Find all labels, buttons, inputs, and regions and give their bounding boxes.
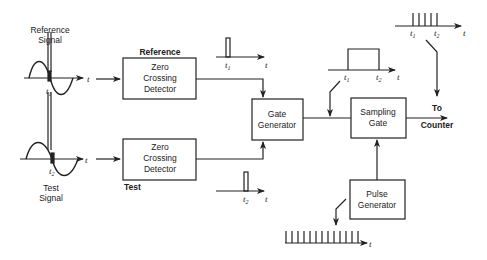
pulse-gen-line2: Generator <box>358 200 396 210</box>
clock-pulses-waveform <box>285 199 367 243</box>
output-t2: t2 <box>434 28 440 39</box>
test-axis-t: t <box>85 155 88 165</box>
clock-pointer <box>336 199 346 225</box>
zcd-test-line1: Zero <box>151 142 169 152</box>
ref-pulse-axis: t <box>265 60 268 70</box>
ref-axis-t: t <box>87 74 90 84</box>
output-to-label: To <box>432 103 442 113</box>
output-counter-label: Counter <box>421 120 454 130</box>
output-pulses-waveform <box>395 13 461 96</box>
ref-t1-label: t1 <box>46 86 52 97</box>
reference-pulse-waveform <box>216 38 264 57</box>
zcd-ref-tag: Reference <box>139 47 180 57</box>
reference-signal-label-2: Signal <box>38 35 62 45</box>
ref-to-gate-connector <box>196 79 263 97</box>
test-signal-waveform <box>20 143 120 176</box>
gate-waveform <box>328 49 395 116</box>
gate-gen-line2: Generator <box>258 120 296 130</box>
pulse-gen-line1: Pulse <box>366 189 388 199</box>
test-pulse-axis: t <box>265 194 268 204</box>
gate-t1: t1 <box>344 72 350 83</box>
gate-gen-line1: Gate <box>268 109 287 119</box>
phase-measurement-block-diagram: Reference Signal t1 t t2 t Test Signal R… <box>0 0 487 260</box>
gate-axis: t <box>397 72 400 82</box>
zcd-ref-line1: Zero <box>151 62 169 72</box>
test-signal-label-1: Test <box>43 183 59 193</box>
reference-signal-label-1: Reference <box>30 25 69 35</box>
test-to-gate-connector <box>196 142 263 159</box>
zcd-ref-line2: Crossing <box>143 73 177 83</box>
zcd-test-line2: Crossing <box>143 153 177 163</box>
ref-pulse-t1: t1 <box>225 60 231 71</box>
zcd-ref-line3: Detector <box>144 84 176 94</box>
test-t2-label: t2 <box>49 166 55 177</box>
test-pulse-waveform <box>216 172 264 191</box>
test-signal-label-2: Signal <box>39 193 63 203</box>
sampling-gate-line2: Gate <box>369 118 388 128</box>
output-t1: t1 <box>410 28 416 39</box>
clock-axis: t <box>369 239 372 249</box>
gate-t2: t2 <box>376 72 382 83</box>
gate-pointer <box>330 81 340 116</box>
output-pointer <box>426 40 437 96</box>
zcd-test-line3: Detector <box>144 164 176 174</box>
output-axis: t <box>463 28 466 38</box>
test-pulse-t2: t2 <box>243 194 249 205</box>
sampling-gate-line1: Sampling <box>360 107 396 117</box>
zcd-test-tag: Test <box>124 182 141 192</box>
reference-signal-waveform <box>24 32 120 150</box>
